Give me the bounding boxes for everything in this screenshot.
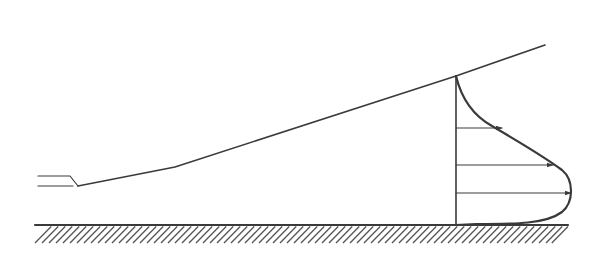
hatch-line <box>476 227 492 244</box>
hatch-line <box>462 227 478 244</box>
hatch-line <box>217 227 233 244</box>
hatch-line <box>378 227 394 244</box>
hatch-line <box>308 227 324 244</box>
hatch-line <box>343 227 359 244</box>
hatch-line <box>399 227 415 244</box>
hatch-line <box>315 227 331 244</box>
hatch-line <box>56 227 72 244</box>
wall-jet-diagram <box>0 0 601 270</box>
hatch-line <box>455 227 471 244</box>
hatch-line <box>448 227 464 244</box>
wall-hatching <box>35 227 568 244</box>
hatch-line <box>154 227 170 244</box>
hatch-line <box>91 227 107 244</box>
hatch-line <box>490 227 506 244</box>
hatch-line <box>385 227 401 244</box>
velocity-profile-curve <box>456 76 571 225</box>
hatch-line <box>84 227 100 244</box>
hatch-line <box>98 227 114 244</box>
hatch-line <box>105 227 121 244</box>
hatch-line <box>238 227 254 244</box>
hatch-line <box>63 227 79 244</box>
hatch-line <box>119 227 135 244</box>
hatch-line <box>203 227 219 244</box>
hatch-line <box>532 227 548 244</box>
hatch-line <box>182 227 198 244</box>
hatch-line <box>42 227 58 244</box>
hatch-line <box>273 227 289 244</box>
hatch-line <box>77 227 93 244</box>
hatch-line <box>259 227 275 244</box>
hatch-line <box>294 227 310 244</box>
hatch-line <box>525 227 541 244</box>
hatch-line <box>469 227 485 244</box>
hatch-line <box>126 227 142 244</box>
hatch-line <box>231 227 247 244</box>
hatch-line <box>175 227 191 244</box>
hatch-line <box>371 227 387 244</box>
hatch-line <box>196 227 212 244</box>
hatch-line <box>518 227 534 244</box>
hatch-line <box>210 227 226 244</box>
hatch-line <box>483 227 499 244</box>
hatch-line <box>364 227 380 244</box>
hatch-line <box>539 227 555 244</box>
velocity-profile <box>456 76 571 225</box>
hatch-line <box>133 227 149 244</box>
hatch-line <box>140 227 156 244</box>
hatch-line <box>497 227 513 244</box>
hatch-line <box>266 227 282 244</box>
hatch-line <box>189 227 205 244</box>
hatch-line <box>168 227 184 244</box>
hatch-line <box>504 227 520 244</box>
hatch-line <box>224 227 240 244</box>
nozzle-upper-wall <box>38 176 78 186</box>
hatch-line <box>161 227 177 244</box>
hatch-line <box>434 227 450 244</box>
hatch-line <box>511 227 527 244</box>
hatch-line <box>322 227 338 244</box>
hatch-line <box>441 227 457 244</box>
hatch-line <box>301 227 317 244</box>
hatch-line <box>147 227 163 244</box>
hatch-line <box>413 227 429 244</box>
hatch-line <box>420 227 436 244</box>
hatch-line <box>357 227 373 244</box>
wall <box>35 225 568 243</box>
hatch-line <box>280 227 296 244</box>
hatch-line <box>336 227 352 244</box>
hatch-line <box>49 227 65 244</box>
hatch-line <box>350 227 366 244</box>
hatch-line <box>392 227 408 244</box>
hatch-line <box>287 227 303 244</box>
hatch-line <box>406 227 422 244</box>
hatch-line <box>70 227 86 244</box>
hatch-line <box>329 227 345 244</box>
hatch-line <box>35 227 51 244</box>
hatch-line <box>427 227 443 244</box>
hatch-line <box>245 227 261 244</box>
nozzle <box>38 176 78 186</box>
hatch-line <box>112 227 128 244</box>
hatch-line <box>252 227 268 244</box>
